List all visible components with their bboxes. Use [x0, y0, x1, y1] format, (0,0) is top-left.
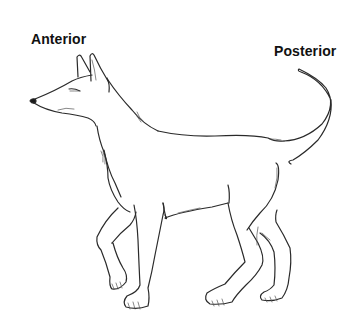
dog-tail	[284, 69, 331, 164]
dog-illustration	[0, 0, 363, 332]
anatomy-diagram: Anterior Posterior	[0, 0, 363, 332]
dog-body	[97, 126, 284, 230]
dog-legs	[97, 150, 291, 309]
dog-head	[30, 54, 158, 131]
